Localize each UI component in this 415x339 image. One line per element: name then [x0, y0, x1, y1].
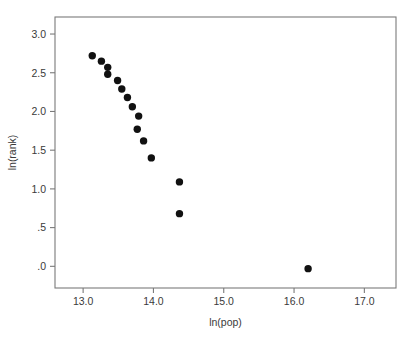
y-axis-title: ln(rank) — [6, 135, 18, 171]
data-point — [148, 154, 155, 161]
y-tick-label: 1.0 — [31, 183, 46, 195]
x-tick-label: 16.0 — [284, 295, 305, 307]
data-point — [104, 71, 111, 78]
x-tick-label: 17.0 — [354, 295, 375, 307]
scatter-plot-figure: 13.014.015.016.017.0 .0.51.01.52.02.53.0… — [0, 0, 415, 339]
data-point — [140, 137, 147, 144]
y-tick-label: 2.5 — [31, 67, 46, 79]
data-point — [134, 126, 141, 133]
data-point — [304, 265, 311, 272]
plot-canvas: 13.014.015.016.017.0 .0.51.01.52.02.53.0… — [0, 0, 415, 339]
y-tick-label: .0 — [37, 260, 46, 272]
data-point — [98, 57, 105, 64]
x-axis-title: ln(pop) — [209, 316, 242, 328]
data-point — [104, 64, 111, 71]
data-point — [124, 94, 131, 101]
x-tick-label: 14.0 — [143, 295, 164, 307]
x-tick-label: 13.0 — [73, 295, 94, 307]
y-tick-label: .5 — [37, 221, 46, 233]
data-point — [114, 77, 121, 84]
data-point — [176, 210, 183, 217]
data-point — [118, 85, 125, 92]
data-point — [129, 103, 136, 110]
y-tick-label: 2.0 — [31, 105, 46, 117]
data-point — [176, 178, 183, 185]
y-tick-label: 3.0 — [31, 28, 46, 40]
data-point — [89, 52, 96, 59]
y-tick-label: 1.5 — [31, 144, 46, 156]
x-tick-label: 15.0 — [214, 295, 235, 307]
data-point — [135, 112, 142, 119]
